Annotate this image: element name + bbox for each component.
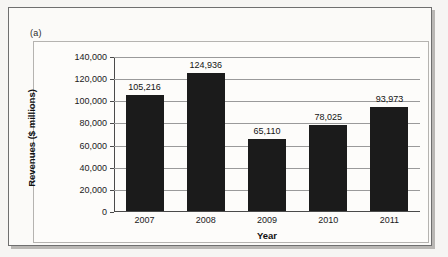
bar[interactable]: 124,9362008 (187, 73, 225, 211)
x-axis-tick-label: 2007 (135, 215, 155, 225)
chart-plot-frame: Revenues ($ millions) 020,00040,00060,00… (33, 41, 429, 243)
y-axis-tick-label: 40,000 (79, 163, 107, 173)
gridline (114, 57, 420, 58)
y-axis-title: Revenues ($ millions) (25, 58, 39, 218)
y-axis-line (114, 57, 115, 212)
y-axis-tick (110, 190, 114, 191)
x-axis-tick-label: 2009 (257, 215, 277, 225)
y-axis-tick (110, 57, 114, 58)
gridline (114, 79, 420, 80)
bar[interactable]: 93,9732011 (370, 107, 408, 211)
y-axis-tick-label: 0 (102, 207, 107, 217)
y-axis-tick-label: 80,000 (79, 118, 107, 128)
x-axis-tick-label: 2010 (318, 215, 338, 225)
y-axis-tick (110, 79, 114, 80)
bar-value-label: 93,973 (376, 94, 404, 104)
y-axis-tick-label: 20,000 (79, 185, 107, 195)
y-axis-tick (110, 212, 114, 213)
y-axis-tick (110, 123, 114, 124)
y-axis-tick-label: 60,000 (79, 141, 107, 151)
x-axis-title: Year (257, 230, 277, 241)
x-axis-line (114, 211, 420, 212)
y-axis-tick (110, 146, 114, 147)
bar-value-label: 65,110 (254, 126, 281, 136)
plot-area: 020,00040,00060,00080,000100,000120,0001… (114, 57, 420, 212)
bar[interactable]: 78,0252010 (309, 125, 347, 211)
y-axis-tick (110, 101, 114, 102)
bar-value-label: 78,025 (314, 112, 342, 122)
y-axis-tick-label: 100,000 (74, 96, 107, 106)
x-axis-tick-label: 2011 (380, 215, 399, 225)
panel-letter: (a) (30, 28, 42, 38)
bar-value-label: 124,936 (190, 60, 223, 70)
figure-screenshot: (a) Revenues ($ millions) 020,00040,0006… (0, 0, 448, 257)
y-axis-tick (110, 168, 114, 169)
y-axis-tick-label: 140,000 (74, 52, 107, 62)
bar[interactable]: 65,1102009 (248, 139, 286, 211)
y-axis-tick-label: 120,000 (74, 74, 107, 84)
x-axis-tick-label: 2008 (196, 215, 216, 225)
bar-value-label: 105,216 (128, 82, 161, 92)
bar[interactable]: 105,2162007 (126, 95, 164, 211)
figure-frame: (a) Revenues ($ millions) 020,00040,0006… (8, 7, 432, 246)
